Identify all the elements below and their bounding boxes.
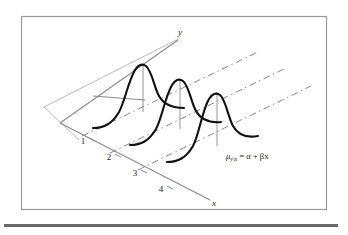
x-tick-label-4: 4 bbox=[159, 184, 164, 194]
canvas-background bbox=[0, 0, 348, 235]
x-axis-label: x bbox=[211, 198, 216, 208]
y-axis-label: y bbox=[177, 27, 182, 37]
formula-rest: = α + βx bbox=[237, 151, 269, 161]
regression-diagram-svg: 1 2 3 4 y x μy|x = α + βx bbox=[0, 0, 348, 235]
x-tick-label-3: 3 bbox=[133, 168, 138, 178]
figure-root: 1 2 3 4 y x μy|x = α + βx bbox=[0, 0, 348, 235]
horizontal-rule bbox=[4, 224, 338, 227]
x-tick-label-1: 1 bbox=[81, 136, 86, 146]
x-tick-label-2: 2 bbox=[107, 152, 112, 162]
